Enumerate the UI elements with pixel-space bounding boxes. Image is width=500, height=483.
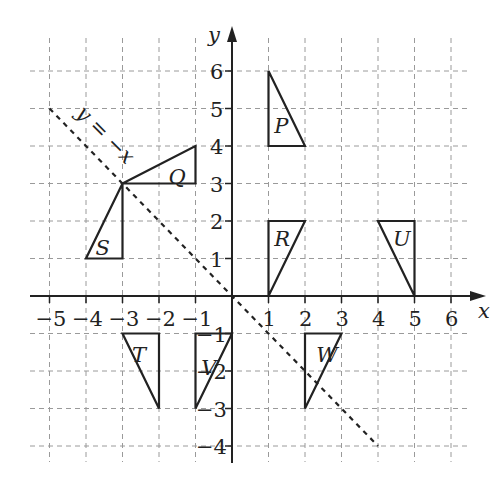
x-tick-label: −4 xyxy=(72,307,103,331)
triangle-label: T xyxy=(132,343,148,367)
triangle-label: S xyxy=(95,236,109,260)
y-tick-label: 3 xyxy=(210,173,223,197)
y-tick-label: −4 xyxy=(196,435,227,459)
coordinate-plane: xy y = −x PQRSTUVW −5−4−3−2−1123456−4−3−… xyxy=(0,0,500,483)
coordinate-grid-diagram: xy y = −x PQRSTUVW −5−4−3−2−1123456−4−3−… xyxy=(0,0,500,483)
x-tick-label: 1 xyxy=(263,307,276,331)
y-tick-label: −3 xyxy=(196,398,227,422)
mirror-line-label: y = −x xyxy=(71,100,140,169)
y-tick-label: 1 xyxy=(210,248,223,272)
y-tick-label: −1 xyxy=(196,323,227,347)
y-axis-label: y xyxy=(207,23,221,47)
y-tick-label: 5 xyxy=(210,98,223,122)
y-tick-label: −2 xyxy=(196,360,227,384)
y-tick-label: 2 xyxy=(210,210,223,234)
x-tick-label: 6 xyxy=(445,307,458,331)
triangle-label: W xyxy=(316,343,340,367)
x-tick-label: 5 xyxy=(409,307,422,331)
triangles: PQRSTUVW xyxy=(86,71,415,409)
mirror-line xyxy=(50,109,379,447)
x-tick-label: −5 xyxy=(36,307,67,331)
triangle-label: R xyxy=(273,227,290,251)
y-tick-label: 6 xyxy=(210,60,223,84)
x-tick-label: 3 xyxy=(336,307,349,331)
x-tick-label: −2 xyxy=(145,307,176,331)
y-axis-arrow-icon xyxy=(227,26,237,42)
triangle-t: T xyxy=(123,334,160,409)
triangle-label: U xyxy=(393,227,412,251)
triangle-label: P xyxy=(273,114,289,138)
x-axis-label: x xyxy=(478,299,490,323)
x-tick-label: 4 xyxy=(372,307,385,331)
x-tick-label: −3 xyxy=(109,307,140,331)
x-tick-label: 2 xyxy=(299,307,312,331)
y-tick-label: 4 xyxy=(210,135,223,159)
triangle-label: Q xyxy=(168,165,185,189)
triangle-s: S xyxy=(86,184,123,261)
